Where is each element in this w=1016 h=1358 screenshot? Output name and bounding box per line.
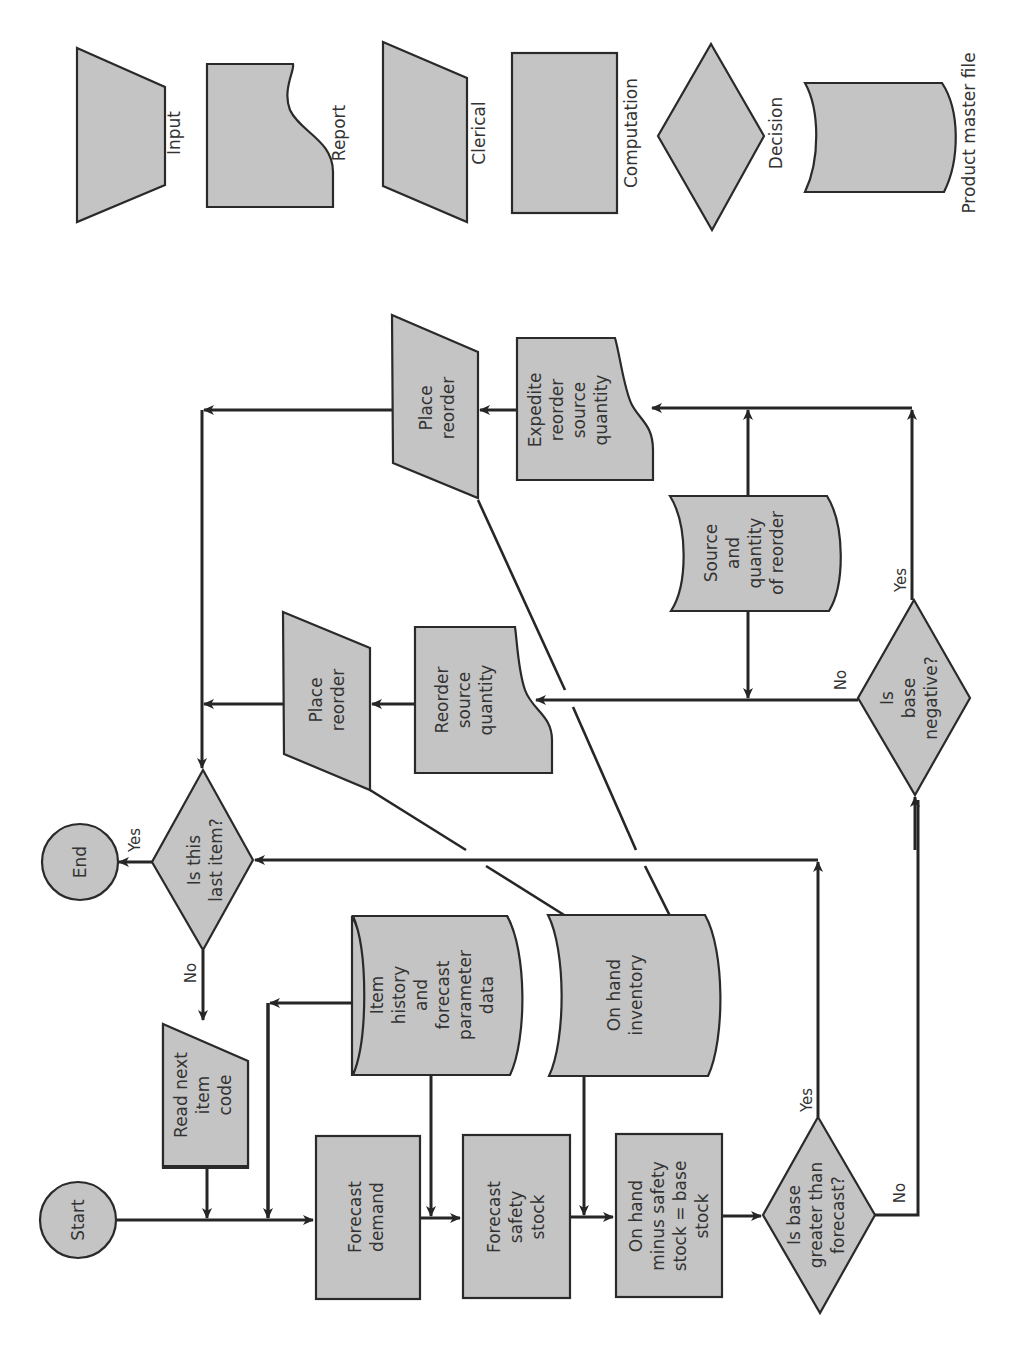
svg-text:Reorder: Reorder: [432, 667, 452, 734]
svg-text:forecast?: forecast?: [828, 1176, 848, 1254]
svg-text:Expedite: Expedite: [525, 373, 545, 448]
svg-text:source: source: [569, 382, 589, 438]
svg-text:and: and: [411, 979, 431, 1011]
svg-text:demand: demand: [367, 1182, 387, 1252]
svg-text:On hand: On hand: [626, 1180, 646, 1252]
svg-text:Start: Start: [68, 1199, 88, 1241]
greater-yes-label: Yes: [798, 1088, 816, 1113]
source-quantity-file: Source and quantity of reorder: [670, 496, 841, 611]
legend: Input Report Clerical Computation Decisi…: [77, 42, 979, 230]
legend-report-label: Report: [329, 104, 349, 161]
svg-text:of reorder: of reorder: [767, 511, 787, 595]
svg-text:base: base: [899, 678, 919, 719]
last-yes-label: Yes: [126, 828, 144, 853]
legend-input-shape: [77, 48, 165, 222]
is-base-negative-decision: Is base negative?: [858, 600, 970, 795]
svg-text:minus safety: minus safety: [648, 1161, 668, 1271]
place-reorder-lower: Place reorder: [283, 612, 370, 790]
svg-text:stock = base: stock = base: [670, 1161, 690, 1272]
svg-text:stock: stock: [528, 1194, 548, 1239]
on-hand-inventory-file: On hand inventory: [548, 915, 720, 1076]
svg-text:data: data: [477, 976, 497, 1014]
legend-computation-shape: [512, 53, 617, 213]
svg-text:quantity: quantity: [591, 375, 611, 446]
expedite-reorder-report: Expedite reorder source quantity: [517, 338, 653, 480]
svg-text:last item?: last item?: [206, 818, 226, 902]
legend-file-label: Product master file: [959, 52, 979, 213]
svg-text:forecast: forecast: [433, 960, 453, 1029]
svg-text:Item: Item: [367, 976, 387, 1015]
svg-text:reorder: reorder: [547, 379, 567, 441]
item-history-file: Item history and forecast parameter data: [352, 916, 522, 1075]
is-base-greater-decision: Is base greater than forecast?: [763, 1117, 875, 1313]
svg-text:Is: Is: [877, 691, 897, 705]
legend-report-shape: [207, 64, 333, 207]
svg-text:reorder: reorder: [438, 377, 458, 439]
svg-text:On hand: On hand: [604, 959, 624, 1031]
svg-text:quantity: quantity: [476, 665, 496, 736]
svg-text:safety: safety: [506, 1191, 526, 1243]
svg-text:greater than: greater than: [806, 1162, 826, 1268]
svg-text:Read next: Read next: [171, 1052, 191, 1138]
svg-text:source: source: [454, 672, 474, 728]
svg-text:End: End: [70, 846, 90, 878]
forecast-demand-node: Forecast demand: [316, 1136, 420, 1299]
legend-clerical-label: Clerical: [469, 101, 489, 164]
reorder-source-quantity-report: Reorder source quantity: [415, 627, 552, 773]
legend-decision-shape: [658, 44, 764, 230]
negative-yes-label: Yes: [892, 568, 910, 593]
flowchart-canvas: Input Report Clerical Computation Decisi…: [0, 0, 1016, 1358]
svg-text:parameter: parameter: [455, 950, 475, 1040]
svg-text:reorder: reorder: [328, 669, 348, 731]
svg-text:Forecast: Forecast: [484, 1181, 504, 1253]
base-stock-node: On hand minus safety stock = base stock: [616, 1134, 722, 1297]
legend-file-shape: [805, 83, 956, 192]
legend-input-label: Input: [164, 111, 184, 155]
place-reorder-upper: Place reorder: [392, 315, 478, 498]
legend-clerical-shape: [383, 42, 467, 222]
svg-text:negative?: negative?: [921, 656, 941, 739]
is-last-item-decision: Is this last item?: [152, 770, 253, 950]
svg-text:history: history: [389, 966, 409, 1024]
svg-text:Source: Source: [701, 524, 721, 582]
svg-text:Place: Place: [416, 385, 436, 430]
read-next-item-node: Read next item code: [163, 1024, 248, 1168]
svg-text:and: and: [723, 537, 743, 569]
svg-text:code: code: [215, 1075, 235, 1116]
svg-text:Is this: Is this: [184, 835, 204, 885]
negative-no-label: No: [832, 670, 850, 690]
greater-no-label: No: [891, 1183, 909, 1203]
svg-text:item: item: [193, 1076, 213, 1114]
svg-text:quantity: quantity: [745, 518, 765, 589]
svg-text:stock: stock: [692, 1193, 712, 1238]
svg-text:inventory: inventory: [626, 955, 646, 1036]
svg-text:Place: Place: [306, 677, 326, 722]
legend-computation-label: Computation: [621, 78, 641, 188]
svg-text:Forecast: Forecast: [345, 1181, 365, 1253]
start-node: Start: [40, 1182, 116, 1258]
last-no-label: No: [182, 963, 200, 983]
legend-decision-label: Decision: [766, 97, 786, 169]
forecast-safety-stock-node: Forecast safety stock: [463, 1135, 570, 1298]
end-node: End: [42, 824, 118, 900]
svg-text:Is base: Is base: [784, 1185, 804, 1245]
